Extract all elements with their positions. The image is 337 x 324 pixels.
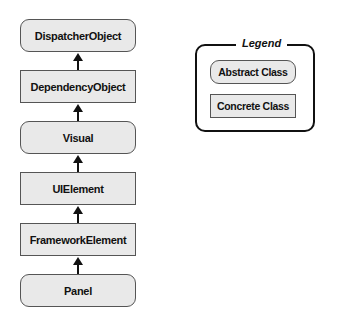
- inheritance-arrow: [77, 213, 79, 223]
- class-dependencyobject: DependencyObject: [20, 70, 136, 103]
- class-dispatcherobject: DispatcherObject: [20, 19, 136, 52]
- class-uielement: UIElement: [20, 172, 136, 205]
- inheritance-arrow: [77, 111, 79, 121]
- inheritance-arrow: [77, 60, 79, 70]
- legend-abstract-class: Abstract Class: [210, 60, 296, 84]
- inheritance-arrow: [77, 264, 79, 274]
- class-frameworkelement: FrameworkElement: [20, 223, 136, 256]
- legend-title: Legend: [236, 37, 287, 49]
- arrowhead-icon: [73, 53, 83, 61]
- arrowhead-icon: [73, 257, 83, 265]
- class-visual: Visual: [20, 121, 136, 154]
- inheritance-arrow: [77, 162, 79, 172]
- arrowhead-icon: [73, 206, 83, 214]
- legend-concrete-class: Concrete Class: [210, 94, 296, 118]
- arrowhead-icon: [73, 155, 83, 163]
- arrowhead-icon: [73, 104, 83, 112]
- class-panel: Panel: [20, 274, 136, 307]
- legend-box: Abstract Class Concrete Class: [195, 44, 315, 132]
